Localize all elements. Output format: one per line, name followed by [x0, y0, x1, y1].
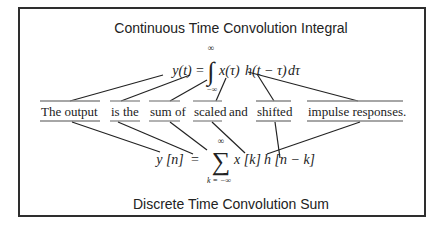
continuous-lhs: y(t) — [170, 63, 192, 79]
discrete-h-term: h [n − k] — [264, 152, 315, 167]
discrete-equals: = — [191, 152, 199, 167]
sentence-row: The output is the sum of scaled and shif… — [40, 101, 406, 121]
word-shifted: shifted — [257, 104, 293, 119]
word-is-the: is the — [111, 104, 139, 119]
integral-upper-limit: ∞ — [208, 43, 214, 53]
integral-lower-limit: −∞ — [207, 85, 218, 94]
continuous-equals: = — [196, 63, 204, 78]
sum-upper-limit: ∞ — [218, 136, 224, 146]
continuous-formula: ∞ y(t) = ∫ −∞ x(τ) h(t − τ) dτ — [170, 43, 301, 94]
sum-lower-limit: k = −∞ — [207, 176, 231, 185]
continuous-d-term: dτ — [288, 63, 301, 78]
bottom-title: Discrete Time Convolution Sum — [133, 196, 329, 212]
word-scaled: scaled — [194, 104, 227, 119]
convolution-diagram: Continuous Time Convolution Integral ∞ y… — [0, 0, 444, 234]
word-sum-of: sum of — [150, 104, 186, 119]
word-the-output: The output — [41, 104, 98, 119]
sum-symbol: ∑ — [212, 147, 231, 176]
discrete-lhs: y [n] — [154, 152, 184, 167]
word-and: and — [229, 104, 248, 119]
continuous-x-term: x(τ) — [218, 63, 240, 79]
integral-symbol: ∫ — [205, 57, 216, 87]
top-title: Continuous Time Convolution Integral — [114, 20, 347, 36]
word-impulse-responses: impulse responses. — [308, 104, 406, 119]
discrete-x-term: x [k] — [233, 152, 261, 167]
